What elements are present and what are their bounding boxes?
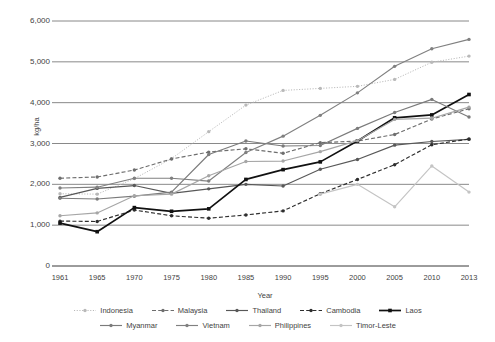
- data-point: [133, 177, 136, 180]
- y-tick-label: 5,000: [8, 58, 50, 66]
- data-point: [95, 197, 98, 200]
- legend-item-malaysia[interactable]: Malaysia: [151, 306, 208, 315]
- data-point: [244, 147, 247, 150]
- legend-item-cambodia[interactable]: Cambodia: [299, 306, 360, 315]
- data-point: [281, 134, 284, 137]
- data-point: [207, 179, 210, 182]
- data-point: [244, 139, 247, 142]
- data-point: [430, 140, 433, 143]
- y-tick-label: 6,000: [8, 17, 50, 25]
- legend-swatch: [299, 306, 323, 315]
- data-point: [207, 130, 210, 133]
- data-point: [467, 115, 470, 118]
- legend-item-indonesia[interactable]: Indonesia: [73, 306, 133, 315]
- series-line: [60, 139, 469, 197]
- data-point: [281, 144, 284, 147]
- data-point: [319, 150, 322, 153]
- legend-row-primary: IndonesiaMalaysiaThailandCambodiaLaos: [0, 303, 495, 318]
- legend-label: Indonesia: [100, 306, 133, 315]
- data-point: [393, 65, 396, 68]
- legend-swatch: [329, 321, 353, 330]
- legend-label: Laos: [405, 306, 421, 315]
- x-tick-label: 1995: [300, 274, 340, 282]
- data-point: [319, 114, 322, 117]
- data-point: [170, 157, 173, 160]
- data-point: [430, 116, 433, 119]
- data-point: [170, 192, 173, 195]
- legend-swatch: [225, 306, 249, 315]
- data-point: [170, 177, 173, 180]
- data-point: [393, 205, 396, 208]
- data-point: [356, 183, 359, 186]
- legend-swatch: [175, 321, 199, 330]
- x-tick-label: 1990: [263, 274, 303, 282]
- data-point: [281, 152, 284, 155]
- data-point: [393, 111, 396, 114]
- data-point: [319, 87, 322, 90]
- data-point: [467, 105, 470, 108]
- data-point: [319, 168, 322, 171]
- data-point: [244, 213, 247, 216]
- data-point: [356, 85, 359, 88]
- data-point: [58, 177, 61, 180]
- data-point: [430, 113, 434, 117]
- series-line: [60, 95, 469, 232]
- x-tick-label: 2000: [337, 274, 377, 282]
- data-point: [281, 159, 284, 162]
- legend-label: Malaysia: [178, 306, 208, 315]
- data-point: [393, 78, 396, 81]
- x-tick-label: 1961: [40, 274, 80, 282]
- data-point: [356, 127, 359, 130]
- data-point: [58, 192, 61, 195]
- legend-item-thailand[interactable]: Thailand: [225, 306, 281, 315]
- legend-swatch: [248, 321, 272, 330]
- legend-row-secondary: MyanmarVietnamPhilippinesTimor-Leste: [0, 318, 495, 333]
- data-point: [318, 160, 322, 164]
- y-tick-label: 3,000: [8, 140, 50, 148]
- legend-swatch: [378, 306, 402, 315]
- x-tick-label: 1985: [226, 274, 266, 282]
- data-point: [244, 103, 247, 106]
- data-point: [281, 184, 284, 187]
- data-point: [207, 187, 210, 190]
- data-point: [95, 175, 98, 178]
- data-point: [319, 144, 322, 147]
- data-point: [430, 61, 433, 64]
- data-point: [133, 206, 137, 210]
- data-point: [356, 158, 359, 161]
- series-philippines: [58, 105, 470, 217]
- data-point: [430, 98, 433, 101]
- series-vietnam: [58, 38, 470, 190]
- legend-item-vietnam[interactable]: Vietnam: [175, 321, 229, 330]
- data-point: [281, 89, 284, 92]
- data-point: [430, 47, 433, 50]
- series-thailand: [58, 138, 470, 199]
- data-point: [58, 186, 61, 189]
- series-cambodia: [58, 137, 470, 223]
- data-point: [244, 178, 248, 182]
- legend-label: Myanmar: [126, 321, 157, 330]
- data-point: [467, 93, 471, 97]
- data-point: [207, 174, 210, 177]
- data-point: [95, 211, 98, 214]
- x-tick-label: 2005: [375, 274, 415, 282]
- x-axis-title: Year: [235, 291, 295, 300]
- legend-swatch: [151, 306, 175, 315]
- data-point: [467, 137, 470, 140]
- legend-item-laos[interactable]: Laos: [378, 306, 421, 315]
- y-tick-label: 1,000: [8, 221, 50, 229]
- data-point: [393, 133, 396, 136]
- chart-legend: IndonesiaMalaysiaThailandCambodiaLaos My…: [0, 303, 495, 333]
- data-point: [58, 197, 61, 200]
- legend-item-timor-leste[interactable]: Timor-Leste: [329, 321, 396, 330]
- legend-item-philippines[interactable]: Philippines: [248, 321, 311, 330]
- data-point: [430, 143, 433, 146]
- series-line: [60, 107, 469, 216]
- data-point: [467, 190, 470, 193]
- series-line: [320, 166, 469, 207]
- legend-swatch: [99, 321, 123, 330]
- data-point: [356, 178, 359, 181]
- legend-item-myanmar[interactable]: Myanmar: [99, 321, 157, 330]
- data-point: [95, 220, 98, 223]
- legend-swatch: [73, 306, 97, 315]
